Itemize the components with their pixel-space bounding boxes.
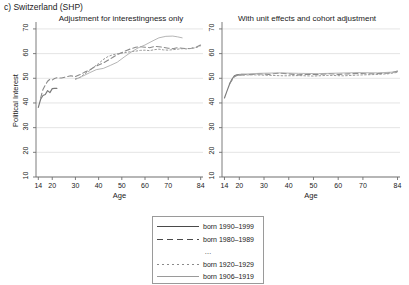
legend-item[interactable]: born 1906–1919: [153, 270, 263, 283]
x-axis-tick-label: 40: [280, 182, 298, 189]
y-axis-tick-label: 10: [208, 168, 215, 184]
x-axis-tick-label: 60: [136, 182, 154, 189]
legend-item-label: born 1980–1989: [203, 233, 254, 246]
x-axis-tick-label: 60: [329, 182, 347, 189]
x-axis-tick-label: 70: [159, 182, 177, 189]
y-axis-tick-label: 30: [22, 118, 29, 134]
legend-item-label: born 1990–1999: [203, 220, 254, 233]
x-axis-tick-label: 50: [113, 182, 131, 189]
y-axis-tick-label: 50: [208, 69, 215, 85]
legend-item-label: born 1920–1929: [203, 258, 254, 271]
x-axis-tick-label: 70: [354, 182, 372, 189]
legend: born 1990–1999born 1980–1989…born 1920–1…: [152, 216, 264, 284]
y-axis-title: Political Interest: [11, 24, 20, 177]
legend-line-key: [157, 239, 199, 240]
y-axis-tick-label: 40: [208, 93, 215, 109]
legend-item-ellipsis: …: [153, 245, 263, 258]
y-axis-tick-label: 40: [22, 93, 29, 109]
y-axis-tick-label: 20: [22, 143, 29, 159]
x-axis-tick-label: 84: [389, 182, 407, 189]
x-axis-tick-label: 50: [304, 182, 322, 189]
chart-series-line: [75, 36, 182, 79]
legend-line-key: [157, 264, 199, 265]
x-axis-tick-label: 20: [43, 182, 61, 189]
legend-item[interactable]: born 1920–1929: [153, 258, 263, 271]
x-axis-tick-label: 40: [90, 182, 108, 189]
y-axis-tick-label: 10: [22, 168, 29, 184]
legend-item[interactable]: born 1990–1999: [153, 220, 263, 233]
legend-item-label: born 1906–1919: [203, 270, 254, 283]
y-axis-tick-label: 70: [208, 19, 215, 35]
y-axis-tick-label: 60: [22, 44, 29, 60]
y-axis-tick-label: 70: [22, 19, 29, 35]
y-axis-tick-label: 50: [22, 69, 29, 85]
y-axis-tick-label: 60: [208, 44, 215, 60]
x-axis-tick-label: 30: [255, 182, 273, 189]
x-axis-title: Age: [222, 191, 400, 200]
legend-line-key: [157, 226, 199, 227]
y-axis-tick-label: 20: [208, 143, 215, 159]
chart-series-line: [75, 46, 200, 79]
y-axis-tick-label: 30: [208, 118, 215, 134]
x-axis-title: Age: [36, 191, 203, 200]
x-axis-tick-label: 30: [66, 182, 84, 189]
legend-line-key: [157, 276, 199, 277]
legend-item[interactable]: born 1980–1989: [153, 233, 263, 246]
x-axis-tick-label: 20: [230, 182, 248, 189]
